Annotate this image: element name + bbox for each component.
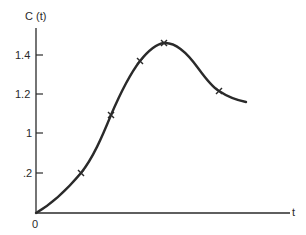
chart-svg: [0, 0, 306, 235]
data-curve: [36, 43, 246, 213]
origin-label: 0: [32, 219, 38, 230]
x-marker-icon: [78, 170, 84, 176]
x-axis-label: t: [292, 207, 295, 218]
y-tick-label: .2: [23, 168, 32, 179]
y-tick-label: 1.4: [15, 50, 30, 61]
y-tick-label: 1.2: [15, 89, 30, 100]
y-tick-label: 1: [26, 128, 32, 139]
y-axis-label: C (t): [25, 11, 46, 22]
x-marker-icon: [137, 58, 143, 64]
chart: C (t) t 0 1.4 1.2 1 .2: [0, 0, 306, 235]
